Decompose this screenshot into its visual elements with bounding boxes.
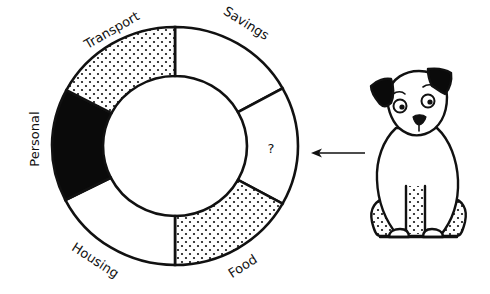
dog-front-legs	[406, 186, 425, 234]
label-savings: Savings	[221, 3, 272, 43]
label-food: Food	[225, 251, 259, 281]
dog-left-ear	[371, 79, 393, 106]
label-unknown-segment: ?	[268, 141, 275, 156]
label-personal: Personal	[27, 111, 42, 166]
dog-illustration	[371, 69, 466, 237]
donut-chart	[52, 27, 298, 265]
arrow-icon	[311, 149, 365, 158]
budget-diagram: Transport Savings Personal Housing Food …	[0, 0, 490, 294]
